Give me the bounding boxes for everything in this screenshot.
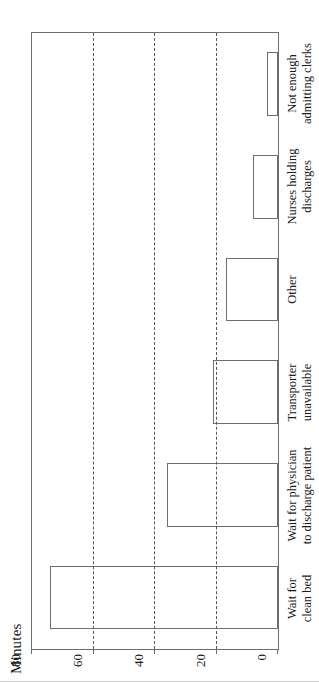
category-label-line: Not enough bbox=[285, 34, 300, 133]
bar[interactable] bbox=[50, 566, 278, 630]
y-tick-mark bbox=[216, 649, 217, 654]
category-label-line: Nurses holding bbox=[285, 137, 300, 236]
chart-rotation-wrapper: Minutes 020406080 Wait forclean bedWait … bbox=[0, 0, 319, 682]
category-label-line: Other bbox=[285, 240, 300, 339]
bar-slot bbox=[32, 136, 278, 239]
bar[interactable] bbox=[213, 361, 278, 425]
bar-slot bbox=[32, 238, 278, 341]
gridline bbox=[216, 33, 217, 649]
category-label-line: Wait for physician bbox=[285, 446, 300, 545]
category-label: Other bbox=[281, 238, 315, 341]
bar-slot bbox=[32, 546, 278, 649]
category-label-line: discharges bbox=[300, 137, 315, 236]
y-tick-mark bbox=[154, 649, 155, 654]
bar-slot bbox=[32, 341, 278, 444]
category-label-line: clean bed bbox=[300, 549, 315, 648]
category-label-line: Transporter bbox=[285, 343, 300, 442]
category-label-line: unavailable bbox=[300, 343, 315, 442]
category-label: Wait forclean bed bbox=[281, 547, 315, 650]
bar[interactable] bbox=[253, 155, 278, 219]
category-label: Wait for physicianto discharge patient bbox=[281, 444, 315, 547]
category-label: Not enoughadmitting clerks bbox=[281, 32, 315, 135]
bar-slot bbox=[32, 444, 278, 547]
y-tick-mark bbox=[93, 649, 94, 654]
category-label-line: admitting clerks bbox=[300, 34, 315, 133]
y-tick-mark bbox=[31, 649, 32, 654]
y-tick-label: 40 bbox=[131, 654, 147, 667]
y-tick-mark bbox=[277, 649, 278, 654]
bar-chart-figure: Minutes 020406080 Wait forclean bedWait … bbox=[0, 0, 319, 682]
plot-area: 020406080 bbox=[31, 32, 279, 650]
gridline bbox=[93, 33, 94, 649]
y-tick-label: 0 bbox=[254, 654, 270, 661]
bar[interactable] bbox=[267, 52, 278, 116]
bar[interactable] bbox=[226, 258, 278, 322]
category-label: Nurses holdingdischarges bbox=[281, 135, 315, 238]
bar-series bbox=[32, 33, 278, 649]
y-tick-label: 20 bbox=[193, 654, 209, 667]
bar-slot bbox=[32, 33, 278, 136]
category-label-line: to discharge patient bbox=[300, 446, 315, 545]
category-axis-labels: Wait forclean bedWait for physicianto di… bbox=[281, 32, 315, 650]
category-label-line: Wait for bbox=[285, 549, 300, 648]
bar[interactable] bbox=[167, 463, 278, 527]
gridline bbox=[154, 33, 155, 649]
y-tick-label: 80 bbox=[8, 654, 24, 667]
category-label: Transporterunavailable bbox=[281, 341, 315, 444]
y-tick-label: 60 bbox=[70, 654, 86, 667]
